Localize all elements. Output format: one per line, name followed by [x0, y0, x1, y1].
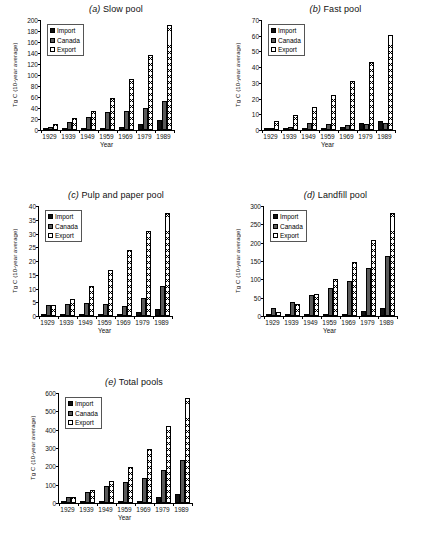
y-tick-a: 120 — [27, 61, 38, 68]
x-tick-label: 1949 — [76, 319, 95, 326]
x-tick-label: 1959 — [97, 133, 116, 140]
bar-group — [359, 206, 378, 316]
panel-title-b: (b) Fast pool — [233, 4, 438, 14]
y-tick-a: 40 — [31, 105, 38, 112]
legend-label: Import — [280, 213, 298, 220]
bar-export — [91, 111, 96, 130]
y-tick-a: 80 — [31, 83, 38, 90]
bar-group — [98, 20, 117, 130]
panel-title-a: (a) Slow pool — [10, 4, 222, 14]
legend-label: Export — [57, 46, 76, 53]
y-tick-b: 30 — [252, 79, 259, 86]
legend-label: Import — [57, 27, 75, 34]
bar-export — [333, 279, 338, 316]
plot-area-d: Tg C (10-year average)050100150200250300… — [233, 206, 438, 334]
y-axis-label-d: Tg C (10-year average) — [233, 206, 243, 316]
x-tick-label: 1939 — [280, 133, 299, 140]
legend-swatch-export-icon — [48, 233, 53, 238]
y-tick-a: 60 — [31, 94, 38, 101]
x-tick-labels-e: 1929193919491959196919791989 — [58, 506, 191, 513]
x-tick-labels-b: 1929193919491959196919791989 — [261, 133, 394, 140]
panel-name-b: Fast pool — [324, 4, 362, 14]
x-tick-label: 1949 — [301, 319, 320, 326]
chart-d: Tg C (10-year average)050100150200250300… — [233, 206, 438, 334]
bar-export — [108, 270, 113, 316]
bar-export — [165, 213, 170, 316]
legend-b: ImportCanadaExport — [268, 24, 305, 56]
y-tick-labels-d: 050100150200250300 — [243, 206, 263, 316]
bar-export — [390, 213, 395, 316]
legend-swatch-canada-icon — [273, 224, 278, 229]
legend-label: Canada — [278, 37, 301, 44]
x-tick-label: 1929 — [263, 319, 282, 326]
x-tick-label: 1939 — [282, 319, 301, 326]
bar-export — [70, 299, 75, 316]
legend-label: Export — [280, 232, 299, 239]
legend-a: ImportCanadaExport — [47, 24, 84, 56]
bar-group — [116, 393, 135, 503]
x-tick-label: 1949 — [78, 133, 97, 140]
legend-swatch-import-icon — [50, 28, 55, 33]
x-tick-label: 1989 — [377, 319, 396, 326]
bar-export — [72, 118, 77, 130]
y-tick-c: 10 — [29, 285, 36, 292]
x-tick-label: 1939 — [59, 133, 78, 140]
y-axis-label-a: Tg C (10-year average) — [10, 20, 20, 130]
legend-label: Import — [55, 213, 73, 220]
bar-export — [185, 398, 190, 503]
x-axis-label-d: Year — [263, 327, 396, 334]
legend-item-canada: Canada — [48, 223, 78, 230]
bar-group — [153, 206, 172, 316]
legend-item-export: Export — [273, 232, 303, 239]
y-tick-c: 15 — [29, 271, 36, 278]
x-tick-label: 1929 — [38, 319, 57, 326]
y-tick-c: 40 — [29, 203, 36, 210]
x-tick-labels-c: 1929193919491959196919791989 — [38, 319, 171, 326]
x-tick-label: 1969 — [337, 133, 356, 140]
y-tick-a: 100 — [27, 72, 38, 79]
panel-title-d: (d) Landfill pool — [233, 190, 438, 200]
panel-title-c: (c) Pulp and paper pool — [10, 190, 222, 200]
x-tickmark — [172, 316, 173, 319]
chart-b: Tg C (10-year average)010203040506070Imp… — [233, 20, 438, 148]
bar-group — [155, 20, 174, 130]
panel-tag-c: (c) — [68, 190, 79, 200]
legend-item-import: Import — [48, 213, 78, 220]
legend-item-canada: Canada — [68, 410, 98, 417]
x-tick-labels-d: 1929193919491959196919791989 — [263, 319, 396, 326]
x-tick-label: 1979 — [133, 319, 152, 326]
legend-item-export: Export — [50, 46, 80, 53]
bar-export — [276, 312, 281, 316]
bar-export — [71, 497, 76, 503]
y-tick-a: 20 — [31, 116, 38, 123]
legend-item-export: Export — [271, 46, 301, 53]
bar-group — [338, 20, 357, 130]
bar-export — [129, 79, 134, 130]
y-tick-e: 100 — [45, 481, 56, 488]
x-tick-label: 1959 — [320, 319, 339, 326]
bar-export — [369, 62, 374, 130]
x-tick-label: 1969 — [116, 133, 135, 140]
x-axis-label-e: Year — [58, 514, 191, 521]
x-tick-label: 1989 — [152, 319, 171, 326]
x-tick-labels-a: 1929193919491959196919791989 — [40, 133, 173, 140]
bar-group — [321, 206, 340, 316]
bar-export — [127, 250, 132, 316]
chart-e: Tg C (10-year average)010020030040050060… — [28, 393, 240, 521]
bar-export — [350, 81, 355, 131]
y-tick-d: 300 — [250, 203, 261, 210]
x-tick-label: 1979 — [356, 133, 375, 140]
x-tick-label: 1979 — [153, 506, 172, 513]
bar-export — [148, 55, 153, 130]
plot-area-e: Tg C (10-year average)010020030040050060… — [28, 393, 240, 521]
bar-export — [352, 262, 357, 316]
bar-export — [167, 25, 172, 130]
legend-item-export: Export — [68, 419, 98, 426]
panel-tag-b: (b) — [310, 4, 321, 14]
x-tickmark — [174, 130, 175, 133]
x-tick-label: 1939 — [77, 506, 96, 513]
x-tick-label: 1969 — [339, 319, 358, 326]
bar-group — [378, 206, 397, 316]
y-tick-e: 400 — [45, 426, 56, 433]
bar-group — [115, 206, 134, 316]
